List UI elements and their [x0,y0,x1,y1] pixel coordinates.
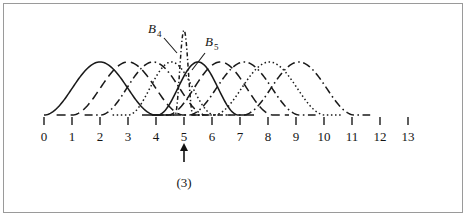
bspline-curve-b7 [173,62,316,115]
b5-leader-line [192,53,205,70]
axis-tick-label-13: 13 [402,129,415,144]
bspline-figure: 012345678910111213 B4B5 (3) [0,0,439,197]
bspline-curve-b9 [227,62,370,115]
axis-tick-label-10: 10 [318,129,331,144]
bspline-curve-b6 [152,62,289,115]
axis-tick-label-1: 1 [69,129,76,144]
bspline-svg: 012345678910111213 B4B5 (3) [0,0,439,197]
bspline-curve-b0 [44,62,171,115]
bspline-annotations: B4B5 [148,21,219,52]
axis-tick-label-5: 5 [181,129,188,144]
figure-caption: (3) [176,175,191,190]
bspline-curve-b5 [142,62,254,115]
b4-leader-line [164,38,177,53]
bspline-label-b4: B4 [148,21,162,39]
axis-tick-label-3: 3 [125,129,132,144]
axis-tick-label-6: 6 [209,129,216,144]
bspline-curve-b2 [85,62,222,115]
bspline-curve-b8 [198,62,341,115]
axis-tick-label-8: 8 [265,129,272,144]
axis-tick-label-9: 9 [293,129,300,144]
bspline-curve-b3 [113,62,231,115]
axis-ticks [44,117,408,125]
axis-tick-labels: 012345678910111213 [41,129,415,144]
axis-tick-label-0: 0 [41,129,48,144]
up-arrow-icon [180,143,188,162]
axis-tick-label-12: 12 [374,129,387,144]
axis-tick-label-7: 7 [237,129,244,144]
bspline-label-b5: B5 [205,34,219,52]
axis-tick-label-11: 11 [346,129,359,144]
axis-tick-label-2: 2 [97,129,104,144]
axis-tick-label-4: 4 [153,129,160,144]
